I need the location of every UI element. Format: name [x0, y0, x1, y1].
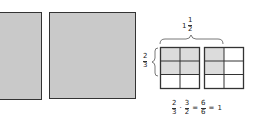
eq-multiply: · [179, 104, 181, 112]
height-label-fraction: 2 3 [143, 53, 147, 69]
eq-equals-2: = [209, 104, 215, 112]
left-brace-icon [152, 48, 158, 76]
width-label-fraction: 1 2 [188, 17, 192, 33]
grid-2 [205, 48, 244, 89]
grid-1 [161, 48, 200, 89]
equation: 2 3 · 3 2 = 6 6 = 1 [172, 99, 222, 117]
eq-result: 1 [217, 104, 221, 112]
width-label-whole: 1 [182, 22, 186, 30]
eq-fraction-3: 6 6 [201, 100, 205, 116]
top-brace-icon [160, 35, 223, 44]
eq-fraction-1: 2 3 [172, 100, 176, 116]
eq-fraction-2: 3 2 [185, 100, 189, 116]
eq-equals-1: = [192, 104, 198, 112]
